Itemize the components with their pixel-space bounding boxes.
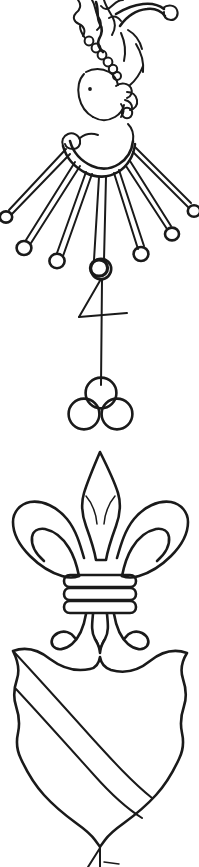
- heraldic-line-drawing: [0, 0, 199, 867]
- figure-four-stem: [101, 280, 102, 385]
- page-background: [0, 0, 199, 867]
- eye-dot: [88, 87, 92, 91]
- illustration-page: [0, 0, 199, 867]
